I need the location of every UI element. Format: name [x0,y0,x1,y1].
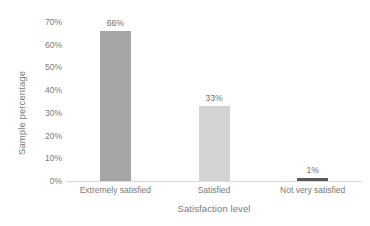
y-axis-tick-label: 10% [26,154,62,163]
x-axis-category-label: Satisfied [198,186,231,195]
y-axis-tick-label: 70% [26,18,62,27]
bar-group: 66% [100,22,131,181]
bar-value-label: 66% [107,19,124,28]
bar[interactable] [297,178,328,181]
bar[interactable] [100,31,131,181]
plot-area: 66%33%1% [66,22,362,182]
y-axis-tick-label: 30% [26,109,62,118]
x-axis-category-label: Not very satisfied [280,186,345,195]
y-axis-tick-label: 60% [26,40,62,49]
bar-value-label: 1% [307,166,319,175]
x-axis-title: Satisfaction level [66,203,362,214]
y-axis-tick-label: 0% [26,177,62,186]
x-axis-line [66,181,362,182]
bar[interactable] [199,106,230,181]
x-axis-category-labels: Extremely satisfiedSatisfiedNot very sat… [66,186,362,200]
bar-group: 1% [297,22,328,181]
bar-value-label: 33% [205,94,222,103]
y-axis-tick-label: 50% [26,63,62,72]
bar-chart: Sample percentage 0%10%20%30%40%50%60%70… [0,0,370,226]
y-axis-tick-label: 40% [26,86,62,95]
y-axis-tick-label: 20% [26,131,62,140]
bar-group: 33% [199,22,230,181]
x-axis-category-label: Extremely satisfied [80,186,151,195]
y-axis-tick-labels: 0%10%20%30%40%50%60%70% [26,0,62,226]
